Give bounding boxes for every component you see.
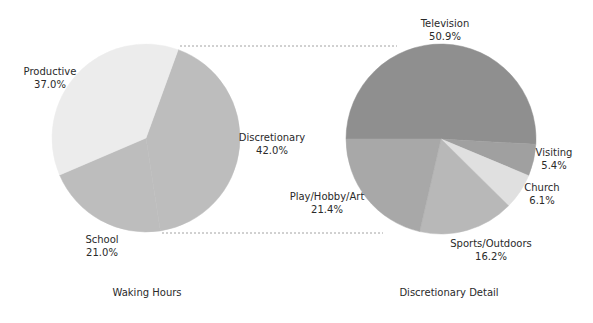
discretionary-detail-pie: [346, 44, 536, 234]
slice-label-sports-outdoors: Sports/Outdoors: [450, 238, 531, 249]
slice-label-productive: Productive: [24, 66, 77, 77]
slice-label-school: School: [85, 234, 118, 245]
slice-label-church: Church: [524, 182, 559, 193]
chart-title-discretionary-detail: Discretionary Detail: [399, 287, 498, 298]
slice-value-discretionary: 42.0%: [256, 145, 288, 156]
slice-value-visiting: 5.4%: [541, 160, 566, 171]
slice-value-play-hobby-art: 21.4%: [311, 204, 343, 215]
chart-title-waking-hours: Waking Hours: [112, 287, 181, 298]
slice-label-discretionary: Discretionary: [239, 132, 306, 143]
pie-of-pie-chart: Discretionary42.0%School21.0%Productive3…: [0, 0, 593, 323]
slice-label-play-hobby-art: Play/Hobby/Art: [290, 191, 365, 202]
slice-value-productive: 37.0%: [34, 79, 66, 90]
slice-value-church: 6.1%: [529, 195, 554, 206]
waking-hours-pie: [52, 44, 240, 232]
slice-value-school: 21.0%: [86, 247, 118, 258]
pie-slice-television: [346, 44, 536, 144]
slice-label-television: Television: [420, 18, 470, 29]
slice-value-sports-outdoors: 16.2%: [475, 251, 507, 262]
slice-label-visiting: Visiting: [536, 147, 573, 158]
slice-value-television: 50.9%: [429, 31, 461, 42]
